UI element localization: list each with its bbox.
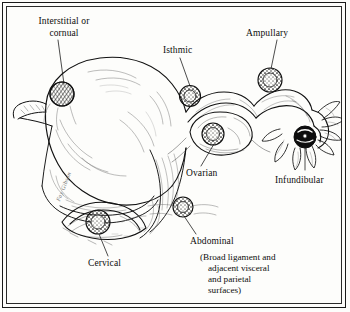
note-line-1: (Broad ligament and: [200, 252, 276, 263]
broad-ligament: [42, 126, 158, 223]
lesion-isthmic: [180, 86, 201, 107]
leader-abdominal: [184, 216, 196, 234]
note-line-2: adjacent visceral: [208, 263, 269, 274]
uterus-shading: [56, 70, 171, 176]
lesion-interstitial: [50, 82, 74, 106]
lesion-abdominal: [173, 197, 193, 217]
note-line-4: surfaces): [208, 285, 241, 296]
leader-ovarian: [201, 144, 214, 166]
lesion-infundibular: [294, 126, 316, 148]
label-interstitial: Interstitial or cornual: [12, 16, 116, 39]
label-ampullary: Ampullary: [246, 28, 288, 40]
leader-ampullary: [271, 40, 277, 69]
note-line-3: and parietal: [208, 274, 251, 285]
label-abdominal: Abdominal: [190, 236, 234, 248]
label-cervical: Cervical: [88, 258, 121, 270]
peritoneal-surface: [140, 148, 186, 238]
label-ovarian: Ovarian: [186, 168, 217, 180]
label-infundibular: Infundibular: [275, 175, 324, 187]
lesion-ovarian: [202, 123, 224, 145]
label-isthmic: Isthmic: [163, 45, 192, 57]
leader-isthmic: [180, 58, 190, 86]
lesion-ampullary: [258, 68, 282, 92]
lesion-cervical: [86, 210, 110, 234]
figure-plate: Interstitial or cornual Isthmic Ampullar…: [0, 0, 350, 312]
